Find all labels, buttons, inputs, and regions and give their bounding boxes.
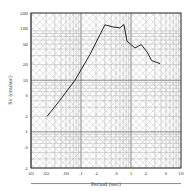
- y-tick-label: 200: [20, 11, 28, 16]
- x-tick-label: 10: [178, 171, 184, 176]
- y-axis-ticks: 200100502010521.5.2: [20, 11, 28, 171]
- x-tick-label: .02: [43, 171, 50, 176]
- y-tick-label: 5: [25, 93, 28, 98]
- x-axis-ticks: .01.02.05.1.2.512510: [28, 171, 184, 176]
- y-tick-label: 10: [23, 78, 29, 83]
- y-tick-label: 50: [23, 42, 29, 47]
- x-tick-label: 5: [165, 171, 168, 176]
- x-tick-label: .5: [114, 171, 118, 176]
- y-tick-label: .2: [24, 166, 28, 171]
- x-tick-label: .1: [79, 171, 83, 176]
- y-tick-label: 2: [25, 114, 28, 119]
- y-tick-label: 1: [25, 129, 28, 134]
- x-tick-label: .01: [28, 171, 35, 176]
- y-tick-label: .5: [24, 145, 28, 150]
- y-tick-label: 100: [20, 26, 28, 31]
- x-tick-label: .2: [94, 171, 98, 176]
- response-spectrum-chart: 200100502010521.5.2 .01.02.05.1.2.512510…: [0, 0, 192, 191]
- y-axis-label: Sv (cm/sec): [7, 75, 13, 104]
- x-tick-label: 1: [130, 171, 133, 176]
- y-tick-label: 20: [23, 62, 29, 67]
- x-tick-label: 2: [145, 171, 148, 176]
- x-axis-label: Period (sec): [91, 181, 121, 187]
- x-tick-label: .05: [63, 171, 70, 176]
